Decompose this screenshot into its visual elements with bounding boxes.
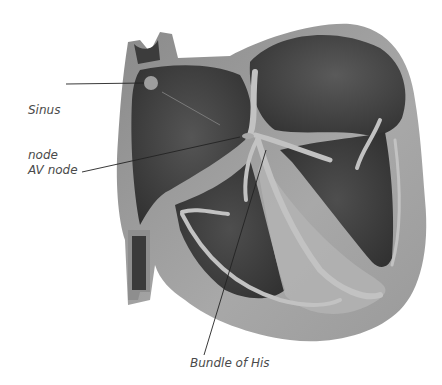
sinus-node (144, 76, 158, 90)
left-atrium-chamber (250, 35, 406, 135)
sinus-node-label-line2: node (28, 148, 60, 163)
sinus-node-label-line1: Sinus (28, 103, 60, 118)
bundle-of-his-label: Bundle of His (190, 356, 270, 371)
heart-diagram: Sinus node AV node Bundle of His (0, 0, 442, 385)
av-node (242, 133, 254, 139)
heart-illustration (0, 0, 442, 385)
av-node-label: AV node (28, 163, 78, 178)
vena-cava-lumen (132, 236, 146, 290)
